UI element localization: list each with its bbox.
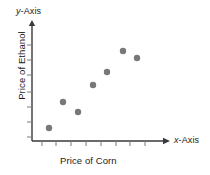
y-axis-title: Price of Ethanol <box>16 28 27 104</box>
data-point-2 <box>60 99 66 105</box>
x-axis-name-label: x-Axis <box>174 135 199 145</box>
data-point-6 <box>120 48 126 54</box>
data-points-group <box>46 48 140 131</box>
x-axis-title: Price of Corn <box>60 155 117 166</box>
data-point-4 <box>90 82 96 88</box>
plot-canvas <box>0 0 210 175</box>
tick-marks-group <box>27 45 145 146</box>
data-point-7 <box>134 55 140 61</box>
data-point-3 <box>75 109 81 115</box>
x-axis-name-suffix: -Axis <box>179 135 200 145</box>
y-axis-name-label: y-Axis <box>16 6 41 16</box>
y-axis-name-suffix: -Axis <box>21 6 42 16</box>
data-point-5 <box>104 69 110 75</box>
data-point-1 <box>46 125 52 131</box>
scatter-plot-figure: y-Axis x-Axis Price of Ethanol Price of … <box>0 0 210 175</box>
